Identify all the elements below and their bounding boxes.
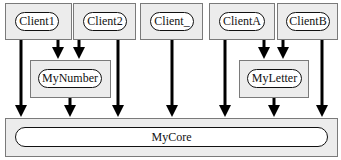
edge-arrows [0, 0, 341, 160]
